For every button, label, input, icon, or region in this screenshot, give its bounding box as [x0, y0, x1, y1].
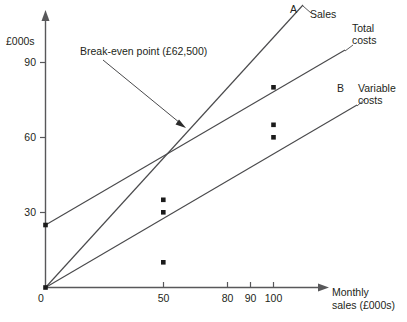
series-label-total-costs-line2: costs [352, 34, 377, 46]
point-label-b: B [337, 82, 344, 94]
series-line-total-costs [46, 50, 346, 225]
marker-variable-costs-100 [271, 135, 276, 140]
marker-sales-50 [161, 210, 166, 215]
x-tick-label-50: 50 [152, 292, 176, 304]
y-tick-label-90: 90 [10, 56, 36, 68]
x-axis-title-line2: sales (£000s) [332, 299, 395, 312]
series-label-variable-costs-line1: Variable [358, 82, 396, 94]
series-label-variable-costs-line2: costs [358, 94, 383, 106]
y-axis-arrowhead [42, 10, 50, 21]
marker-variable-costs-50 [161, 260, 166, 265]
marker-variable-costs-0 [43, 285, 48, 290]
y-tick-label-60: 60 [10, 131, 36, 143]
x-tick-label-80: 80 [216, 292, 240, 304]
breakeven-annotation-label: Break-even point (£62,500) [80, 45, 207, 57]
y-tick-label-30: 30 [10, 206, 36, 218]
marker-total-costs-50 [161, 198, 166, 203]
marker-total-costs-0 [43, 223, 48, 228]
series-label-total-costs-line1: Total [352, 22, 374, 34]
y-axis-unit-label: £000s [6, 35, 35, 47]
breakeven-arrow-line [103, 60, 180, 123]
point-label-a: A [290, 3, 297, 15]
x-axis-title-line1: Monthly [332, 286, 369, 299]
marker-sales-100 [271, 85, 276, 90]
marker-total-costs-100 [271, 123, 276, 128]
x-axis-arrowhead [318, 284, 329, 292]
x-tick-label-100: 100 [262, 292, 286, 304]
x-tick-label-90: 90 [239, 292, 263, 304]
series-line-variable-costs [46, 105, 358, 288]
origin-label: 0 [29, 292, 53, 304]
series-label-sales: Sales [310, 8, 336, 20]
break-even-chart: £000s 90 60 30 0 50 80 90 100 Monthly sa… [0, 0, 407, 322]
